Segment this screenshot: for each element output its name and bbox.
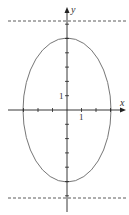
ellipse-plot: x y 1 1 [0,0,129,215]
y-axis-label: y [70,4,76,15]
y-axis-arrow-icon [65,7,70,13]
y-tick-label: 1 [59,91,64,101]
x-axis-arrow-icon [120,108,126,113]
x-axis-label: x [119,97,125,108]
x-tick-label: 1 [79,112,84,122]
